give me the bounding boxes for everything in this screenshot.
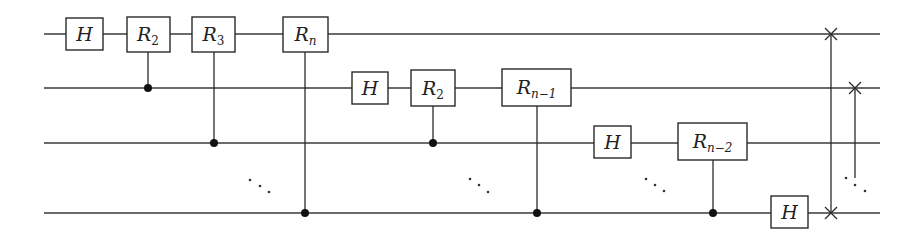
control-dot <box>533 209 541 217</box>
ellipsis-dots-1 <box>249 179 271 194</box>
control-dot <box>301 209 309 217</box>
ellipsis-dots-4 <box>845 177 867 193</box>
gate-r3-1: R3 <box>192 17 235 52</box>
control-dot <box>429 139 437 147</box>
gate-h-3: H <box>594 126 631 158</box>
svg-text:H: H <box>75 23 93 45</box>
gate-h-2: H <box>352 72 388 104</box>
gate-r2-2: R2 <box>411 70 455 106</box>
control-dot <box>709 209 717 217</box>
control-dot <box>144 84 152 92</box>
control-dot <box>210 139 218 147</box>
gate-h-n: H <box>771 196 808 228</box>
ellipsis-dots-3 <box>645 178 666 193</box>
svg-text:H: H <box>780 201 798 223</box>
svg-text:H: H <box>361 77 379 99</box>
gate-rn-1-2: Rn−1 <box>502 69 571 106</box>
svg-text:H: H <box>603 131 621 153</box>
quantum-circuit-diagram: H R2 R3 Rn H R2 Rn−1 H Rn−2 H <box>0 0 918 242</box>
ellipsis-dots-2 <box>469 178 490 194</box>
gate-h-1: H <box>66 18 103 50</box>
gate-r2-1: R2 <box>127 17 170 52</box>
gate-rn-1: Rn <box>283 17 328 52</box>
gate-rn-2-3: Rn−2 <box>678 123 747 160</box>
